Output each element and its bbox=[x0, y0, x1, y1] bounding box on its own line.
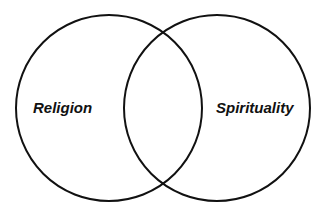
spirituality-label: Spirituality bbox=[216, 99, 294, 116]
religion-label: Religion bbox=[33, 99, 92, 116]
venn-diagram: Religion Spirituality bbox=[0, 0, 319, 216]
